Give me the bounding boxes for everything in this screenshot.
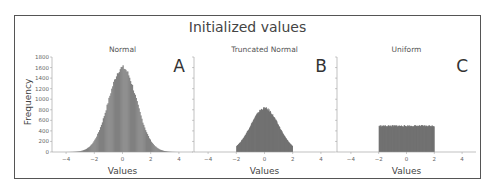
panel-title: Uniform: [337, 45, 476, 54]
x-tick-label: 4: [460, 156, 464, 162]
histogram-normal: −4−2024020040060080010001200140016001800: [52, 57, 193, 152]
x-tick-label: −2: [90, 156, 98, 162]
x-tick-label: −2: [375, 156, 383, 162]
y-tick-label: 1200: [35, 86, 49, 92]
x-tick-label: 2: [149, 156, 153, 162]
y-tick-label: 1000: [35, 96, 49, 102]
y-tick-label: 400: [39, 128, 50, 134]
figure-title: Initialized values: [15, 19, 480, 35]
histogram-truncated-normal: −4−2024: [194, 57, 335, 152]
y-tick-label: 0: [46, 149, 50, 155]
x-axis-label: Values: [337, 166, 476, 176]
panel-uniform: Uniform C −4−2024 Values: [337, 57, 476, 152]
histogram-uniform: −4−2024: [337, 57, 476, 152]
x-tick-label: −2: [232, 156, 240, 162]
y-tick-label: 1800: [35, 54, 49, 60]
x-tick-label: 0: [263, 156, 267, 162]
y-tick-label: 1600: [35, 65, 49, 71]
y-tick-label: 600: [39, 117, 50, 123]
x-tick-label: 4: [319, 156, 323, 162]
y-tick-label: 200: [39, 138, 50, 144]
histogram-bar: [292, 146, 293, 152]
x-axis-label: Values: [194, 166, 335, 176]
x-tick-label: 0: [121, 156, 125, 162]
x-tick-label: 0: [405, 156, 409, 162]
x-tick-label: 4: [177, 156, 181, 162]
x-axis-label: Values: [52, 166, 193, 176]
x-tick-label: 2: [291, 156, 295, 162]
x-tick-label: −4: [347, 156, 356, 162]
x-tick-label: −4: [204, 156, 213, 162]
y-tick-label: 1400: [35, 75, 49, 81]
y-axis-label: Frequency: [23, 72, 33, 132]
x-tick-label: −4: [62, 156, 71, 162]
x-tick-label: 2: [433, 156, 437, 162]
histogram-bar: [434, 126, 435, 152]
panel-truncated-normal: Truncated Normal B −4−2024 Values: [194, 57, 335, 152]
panel-normal: Normal A Frequency −4−202402004006008001…: [52, 57, 193, 152]
panel-title: Truncated Normal: [194, 45, 335, 54]
panel-title: Normal: [52, 45, 193, 54]
y-tick-label: 800: [39, 107, 50, 113]
